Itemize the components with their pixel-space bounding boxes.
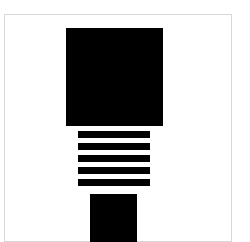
stripe-bar-5 [78,179,150,186]
figure-root [0,0,250,242]
stripe-bar-2 [78,143,150,150]
stripe-bar-3 [78,155,150,162]
head-square-shape [66,28,163,126]
stripe-bar-4 [78,167,150,174]
tail-square-shape [90,194,137,242]
stripe-bar-1 [78,131,150,138]
glyph-layer [0,0,250,242]
